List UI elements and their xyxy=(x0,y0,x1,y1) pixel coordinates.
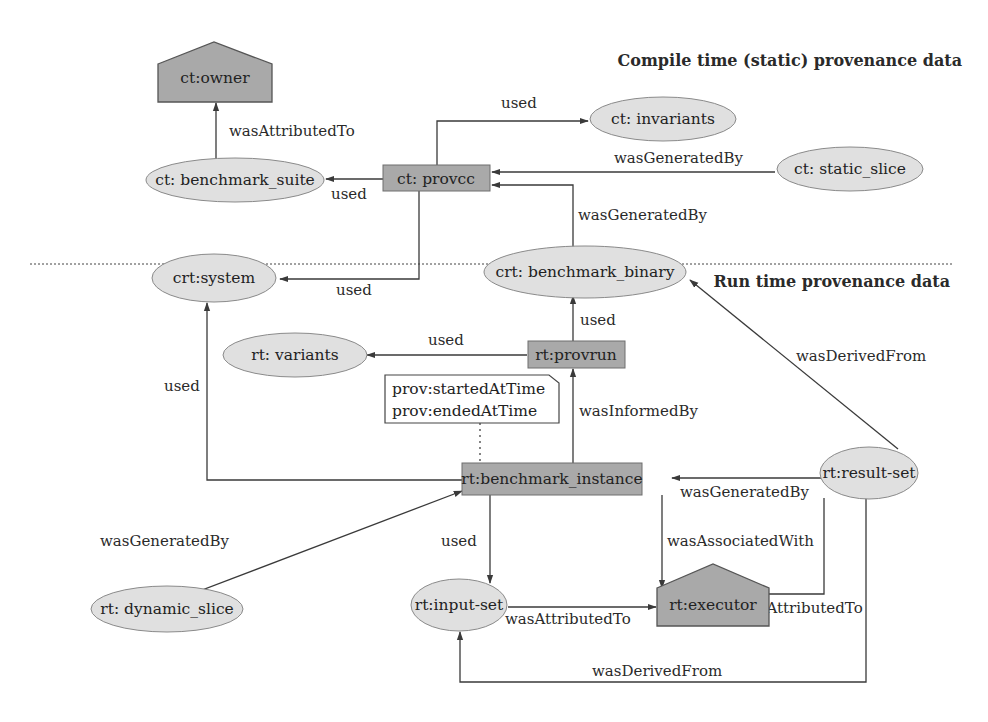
node-rt-variants[interactable]: rt: variants xyxy=(223,333,367,377)
provenance-diagram: Compile time (static) provenance data Ru… xyxy=(0,0,988,722)
svg-text:ct:owner: ct:owner xyxy=(180,69,250,87)
svg-text:ct: benchmark_suite: ct: benchmark_suite xyxy=(155,171,315,189)
note-line-ended: prov:endedAtTime xyxy=(392,402,537,420)
edge-label-input-executor: wasAttributedTo xyxy=(505,610,631,628)
svg-text:rt:benchmark_instance: rt:benchmark_instance xyxy=(461,470,642,488)
edge-label-instance-input: used xyxy=(441,532,477,550)
edge-binary-provcc xyxy=(492,185,573,247)
svg-text:rt:input-set: rt:input-set xyxy=(415,596,504,614)
edge-provcc-system xyxy=(280,191,419,279)
edge-provcc-invariants xyxy=(437,121,588,167)
svg-text:rt: variants: rt: variants xyxy=(251,346,339,364)
node-rt-dynamic-slice[interactable]: rt: dynamic_slice xyxy=(91,586,243,632)
edge-label-provcc-invariants: used xyxy=(501,94,537,112)
edge-label-instance-system: used xyxy=(164,377,200,395)
node-ct-benchmark-suite[interactable]: ct: benchmark_suite xyxy=(146,158,324,202)
node-rt-result-set[interactable]: rt:result-set xyxy=(820,447,918,499)
edge-label-result-binary: wasDerivedFrom xyxy=(796,347,926,365)
edge-label-result-instance: wasGeneratedBy xyxy=(680,483,810,501)
edge-label-binary-provcc: wasGeneratedBy xyxy=(578,206,708,224)
note-line-started: prov:startedAtTime xyxy=(392,380,545,398)
node-rt-benchmark-instance[interactable]: rt:benchmark_instance xyxy=(461,463,642,495)
node-rt-input-set[interactable]: rt:input-set xyxy=(411,579,507,631)
node-ct-invariants[interactable]: ct: invariants xyxy=(590,97,736,141)
svg-text:rt:provrun: rt:provrun xyxy=(535,346,617,364)
edge-label-provrun-variants: used xyxy=(428,331,464,349)
edge-label-suite-owner: wasAttributedTo xyxy=(229,122,355,140)
edge-label-result-input: wasDerivedFrom xyxy=(592,662,722,680)
note-timestamps: prov:startedAtTime prov:endedAtTime xyxy=(385,375,559,423)
node-crt-benchmark-binary[interactable]: crt: benchmark_binary xyxy=(484,246,686,298)
edge-label-provcc-suite: used xyxy=(331,185,367,203)
edge-label-static-slice-provcc: wasGeneratedBy xyxy=(614,149,744,167)
node-rt-provrun[interactable]: rt:provrun xyxy=(528,341,625,368)
node-ct-provcc[interactable]: ct: provcc xyxy=(383,165,490,191)
svg-text:rt:executor: rt:executor xyxy=(669,596,757,614)
svg-text:rt: dynamic_slice: rt: dynamic_slice xyxy=(100,600,234,618)
run-time-header: Run time provenance data xyxy=(714,272,950,291)
svg-text:ct: invariants: ct: invariants xyxy=(611,110,715,128)
svg-text:crt: benchmark_binary: crt: benchmark_binary xyxy=(496,263,675,281)
svg-text:ct: static_slice: ct: static_slice xyxy=(794,160,906,178)
node-rt-executor[interactable]: rt:executor xyxy=(657,564,769,626)
node-ct-owner[interactable]: ct:owner xyxy=(158,42,272,102)
compile-time-header: Compile time (static) provenance data xyxy=(618,51,962,70)
node-crt-system[interactable]: crt:system xyxy=(152,254,276,302)
edge-label-provrun-binary: used xyxy=(580,311,616,329)
edge-label-instance-executor: wasAssociatedWith xyxy=(667,532,814,550)
edge-label-dynamic-slice-instance: wasGeneratedBy xyxy=(100,532,230,550)
svg-text:rt:result-set: rt:result-set xyxy=(822,464,916,482)
node-ct-static-slice[interactable]: ct: static_slice xyxy=(777,147,923,191)
svg-text:crt:system: crt:system xyxy=(173,269,256,287)
svg-text:ct: provcc: ct: provcc xyxy=(397,170,475,188)
edge-label-provcc-system: used xyxy=(336,281,372,299)
edge-label-instance-provrun: wasInformedBy xyxy=(579,402,699,420)
